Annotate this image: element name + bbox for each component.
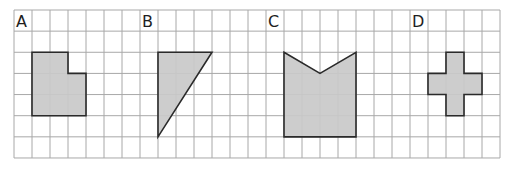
shape-label-c: C xyxy=(268,12,279,31)
shape-label-a: A xyxy=(16,12,27,31)
grid-canvas: A B C D xyxy=(0,0,512,170)
labels-layer: A B C D xyxy=(16,12,424,31)
shape-a xyxy=(32,52,86,115)
shapes-grid-diagram: A B C D xyxy=(0,0,512,170)
square-grid xyxy=(14,10,500,158)
shape-label-d: D xyxy=(412,12,424,31)
shape-d xyxy=(428,52,482,115)
shape-label-b: B xyxy=(142,12,153,31)
